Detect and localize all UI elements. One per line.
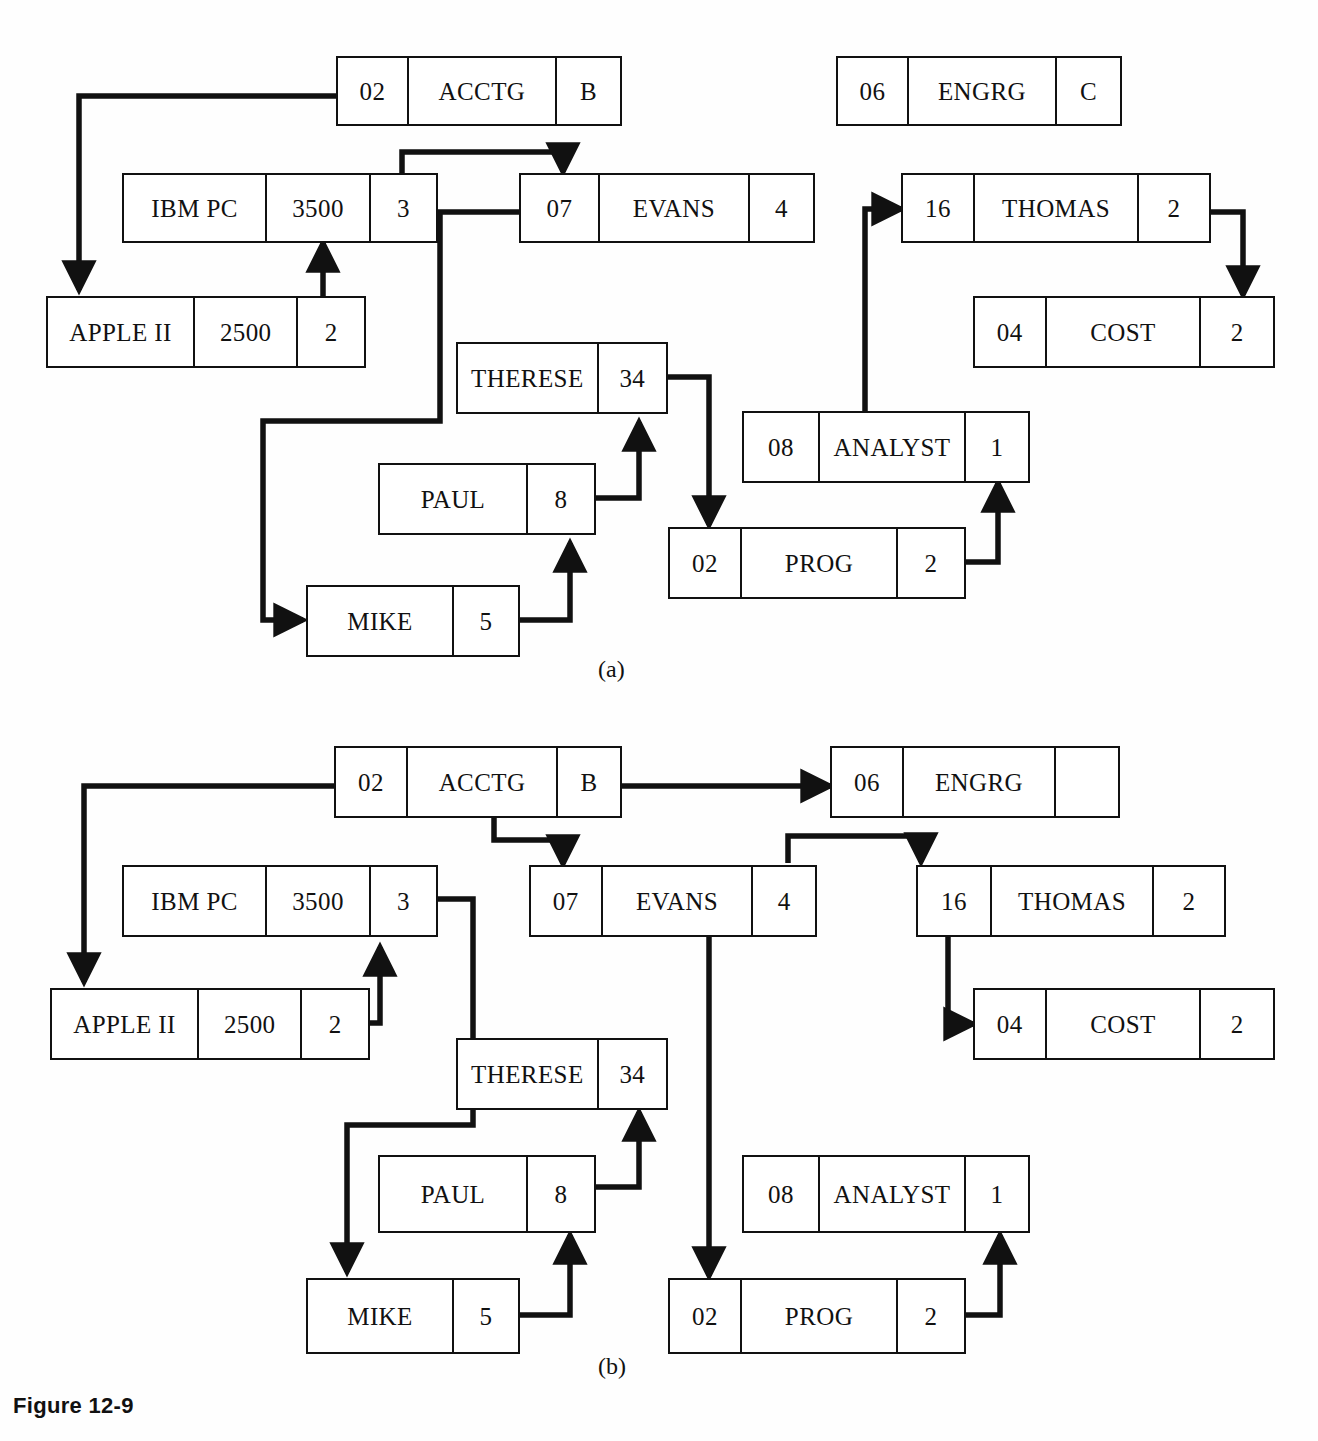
panel-b-paul-record[interactable]: PAUL 8 [378,1155,596,1233]
record-cell-name: EVANS [600,175,750,241]
panel-b-mike-record[interactable]: MIKE 5 [306,1278,520,1354]
panel-b-evans-record[interactable]: 07 EVANS 4 [529,865,817,937]
record-cell-price: 3500 [267,867,371,935]
panel-a-acctg-record[interactable]: 02 ACCTG B [336,56,622,126]
record-cell-value: 2 [1201,990,1273,1058]
record-cell-value: B [557,58,620,124]
panel-b-acctg-record[interactable]: 02 ACCTG B [334,746,622,818]
record-cell-value: 5 [454,1280,518,1352]
record-cell-key: 16 [918,867,992,935]
record-cell-key: 02 [670,529,742,597]
panel-b-appleii-record[interactable]: APPLE II 2500 2 [50,988,370,1060]
record-cell-name: THERESE [458,1040,599,1108]
panel-a-engrg-record[interactable]: 06 ENGRG C [836,56,1122,126]
record-cell-price: 2500 [199,990,302,1058]
panel-b-prog-record[interactable]: 02 PROG 2 [668,1278,966,1354]
record-cell-value: 8 [528,1157,594,1231]
record-cell-name: IBM PC [124,175,267,241]
record-cell-name: ENGRG [909,58,1057,124]
record-cell-value: 3 [371,867,436,935]
record-cell-price: 3500 [267,175,371,241]
panel-b-analyst-record[interactable]: 08 ANALYST 1 [742,1155,1030,1233]
record-cell-key: 08 [744,413,820,481]
panel-a-evans-record[interactable]: 07 EVANS 4 [519,173,815,243]
panel-a-therese-record[interactable]: THERESE 34 [456,342,668,414]
record-cell-value: 2 [1154,867,1224,935]
record-cell-value: 2 [1201,298,1273,366]
record-cell-name: ACCTG [409,58,557,124]
record-cell-name: MIKE [308,587,454,655]
record-cell-key: 16 [903,175,975,241]
panel-a-cost-record[interactable]: 04 COST 2 [973,296,1275,368]
panel-a-ibmpc-record[interactable]: IBM PC 3500 3 [122,173,438,243]
record-cell-name: IBM PC [124,867,267,935]
record-cell-value: 5 [454,587,518,655]
panel-a-label: (a) [598,656,625,683]
panel-a-paul-record[interactable]: PAUL 8 [378,463,596,535]
record-cell-key: 07 [521,175,600,241]
panel-a-thomas-record[interactable]: 16 THOMAS 2 [901,173,1211,243]
record-cell-name: APPLE II [48,298,195,366]
record-cell-name: THOMAS [992,867,1154,935]
record-cell-name: ENGRG [904,748,1056,816]
record-cell-name: APPLE II [52,990,199,1058]
figure-caption: Figure 12-9 [13,1393,134,1419]
record-cell-value: 4 [753,867,815,935]
panel-a-mike-record[interactable]: MIKE 5 [306,585,520,657]
panel-a-prog-record[interactable]: 02 PROG 2 [668,527,966,599]
record-cell-key: 08 [744,1157,820,1231]
panel-b-engrg-record[interactable]: 06 ENGRG [830,746,1120,818]
record-cell-key: 02 [670,1280,742,1352]
record-cell-name: PROG [742,529,898,597]
record-cell-value: 2 [898,529,964,597]
record-cell-value: B [558,748,620,816]
record-cell-key: 02 [336,748,408,816]
record-cell-value: 34 [599,1040,666,1108]
panel-b-cost-record[interactable]: 04 COST 2 [973,988,1275,1060]
record-cell-value: 2 [898,1280,964,1352]
record-cell-name: THERESE [458,344,599,412]
record-cell-name: PROG [742,1280,898,1352]
record-cell-name: ANALYST [820,1157,966,1231]
panel-b-label: (b) [598,1353,626,1380]
record-cell-value: 4 [750,175,813,241]
panel-b-therese-record[interactable]: THERESE 34 [456,1038,668,1110]
record-cell-name: PAUL [380,465,528,533]
figure-canvas: 02 ACCTG B 06 ENGRG C IBM PC 3500 3 07 E… [0,0,1318,1441]
record-cell-value: 1 [966,1157,1028,1231]
record-cell-value: 3 [371,175,436,241]
record-cell-name: ANALYST [820,413,966,481]
record-cell-value: 1 [966,413,1028,481]
panel-a-analyst-record[interactable]: 08 ANALYST 1 [742,411,1030,483]
record-cell-key: 04 [975,298,1047,366]
record-cell-name: MIKE [308,1280,454,1352]
record-cell-value: 2 [298,298,364,366]
record-cell-value: 34 [599,344,666,412]
record-cell-value: 2 [302,990,368,1058]
panel-b-thomas-record[interactable]: 16 THOMAS 2 [916,865,1226,937]
record-cell-key: 06 [832,748,904,816]
record-cell-key: 07 [531,867,603,935]
record-cell-name: COST [1047,990,1202,1058]
record-cell-key: 04 [975,990,1047,1058]
record-cell-name: THOMAS [975,175,1139,241]
record-cell-name: COST [1047,298,1202,366]
record-cell-value: 2 [1139,175,1209,241]
record-cell-price: 2500 [195,298,298,366]
record-cell-key: 06 [838,58,909,124]
record-cell-key: 02 [338,58,409,124]
panel-a-appleii-record[interactable]: APPLE II 2500 2 [46,296,366,368]
record-cell-name: EVANS [603,867,754,935]
record-cell-value: C [1057,58,1120,124]
record-cell-value: 8 [528,465,594,533]
panel-b-ibmpc-record[interactable]: IBM PC 3500 3 [122,865,438,937]
record-cell-name: PAUL [380,1157,528,1231]
record-cell-name: ACCTG [408,748,558,816]
record-cell-value [1056,748,1118,816]
